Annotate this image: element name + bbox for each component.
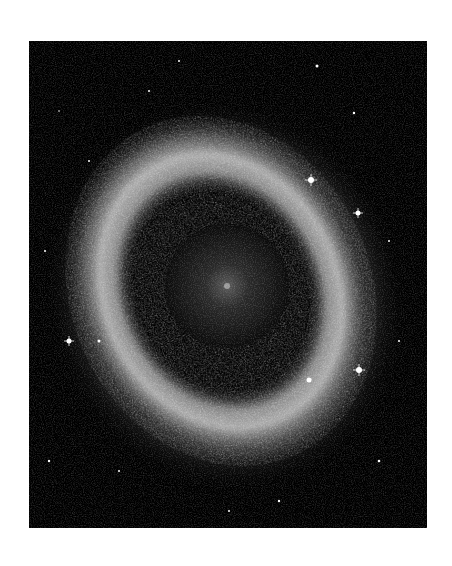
nebula-illustration: [29, 41, 427, 528]
nebula-photo: [29, 41, 427, 528]
